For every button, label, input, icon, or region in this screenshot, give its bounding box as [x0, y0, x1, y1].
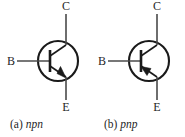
npn-transistor-symbol: C B E — [0, 0, 92, 112]
emitter-arrowhead-pnp — [141, 67, 151, 76]
collector-terminal-label: C — [153, 0, 161, 13]
collector-terminal-label: C — [62, 0, 70, 13]
base-terminal-label: B — [98, 54, 106, 68]
emitter-terminal-label: E — [62, 100, 69, 112]
base-terminal-label: B — [7, 54, 15, 68]
pnp-transistor-symbol: C B E — [92, 0, 184, 112]
caption-pnp: (b) pnp — [92, 112, 185, 137]
emitter-arrowhead-npn — [57, 67, 66, 79]
caption-type-b: pnp — [120, 118, 137, 130]
figure-panel-pnp: C B E (b) pnp — [92, 0, 184, 137]
caption-tag-b: (b) — [104, 118, 117, 130]
caption-tag-a: (a) — [10, 118, 23, 130]
emitter-terminal-label: E — [153, 100, 160, 112]
figure-panel-npn: C B E (a) npn — [0, 0, 92, 137]
collector-internal-lead — [50, 45, 66, 56]
collector-internal-lead — [141, 45, 157, 56]
caption-type-a: npn — [26, 118, 43, 130]
transistor-symbols-figure: C B E (a) npn — [0, 0, 185, 137]
caption-npn: (a) npn — [0, 112, 102, 137]
